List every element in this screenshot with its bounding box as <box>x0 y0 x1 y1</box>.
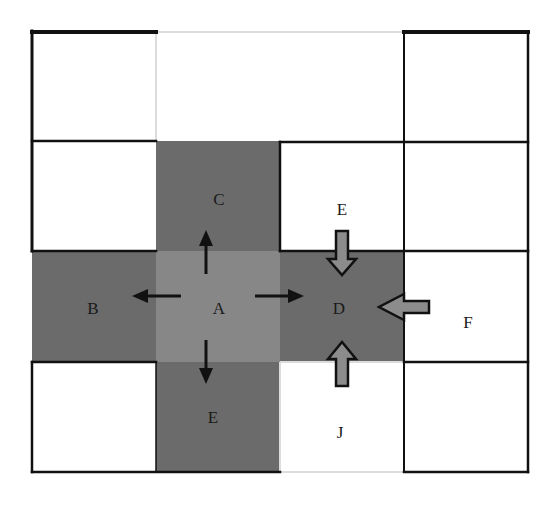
label-e-top: E <box>337 200 347 219</box>
label-d: D <box>333 299 345 318</box>
grid-neighborhood-diagram: C E B A D F E J <box>0 0 558 506</box>
label-j: J <box>337 423 344 442</box>
label-c: C <box>213 190 224 209</box>
label-a: A <box>213 299 226 318</box>
label-f: F <box>463 313 472 332</box>
label-b: B <box>87 299 98 318</box>
label-e-bottom: E <box>208 408 218 427</box>
